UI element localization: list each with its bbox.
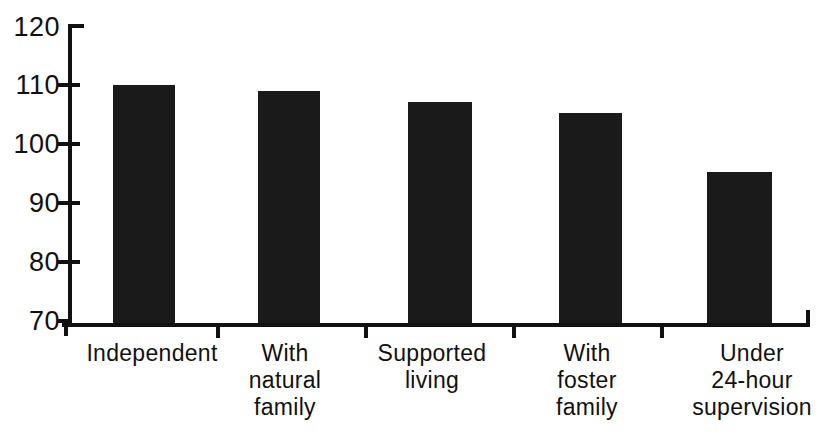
x-axis-category-labels: Independent With natural family Supporte…: [62, 336, 810, 434]
bar-supported-living: [408, 102, 472, 325]
y-tick-label: 120: [4, 14, 60, 41]
y-axis-tick-labels: 120 110 100 90 80 70: [0, 0, 60, 434]
y-tick-label: 110: [4, 72, 60, 99]
y-tick-label: 90: [4, 190, 60, 217]
x-label-line: With: [210, 340, 360, 367]
x-label-line: living: [342, 367, 522, 394]
x-label-under-24-hour-supervision: Under 24-hour supervision: [652, 340, 830, 421]
bar-independent: [113, 85, 175, 325]
x-label-line: Under: [652, 340, 830, 367]
bar-with-natural-family: [258, 91, 320, 325]
x-label-line: 24-hour: [652, 367, 830, 394]
bar-under-24-hour-supervision: [707, 172, 772, 325]
y-tick-label: 80: [4, 249, 60, 276]
x-label-line: foster: [512, 367, 662, 394]
x-label-line: family: [512, 394, 662, 421]
bar-with-foster-family: [559, 113, 622, 325]
x-label-line: supervision: [652, 394, 830, 421]
x-label-supported-living: Supported living: [342, 340, 522, 394]
x-label-with-foster-family: With foster family: [512, 340, 662, 421]
x-label-line: With: [512, 340, 662, 367]
y-tick-label: 100: [4, 131, 60, 158]
x-label-line: family: [210, 394, 360, 421]
x-label-line: Supported: [342, 340, 522, 367]
x-label-with-natural-family: With natural family: [210, 340, 360, 421]
plot-area: 120 110 100 90 80 70: [0, 0, 830, 434]
x-label-line: natural: [210, 367, 360, 394]
bar-chart: 120 110 100 90 80 70: [0, 0, 830, 434]
y-tick-label: 70: [4, 308, 60, 335]
